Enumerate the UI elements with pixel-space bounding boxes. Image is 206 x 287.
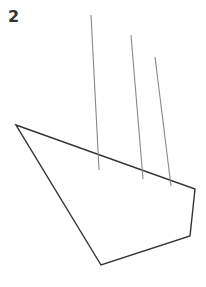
hull-polygon: [16, 125, 195, 265]
mast-line-3: [155, 57, 171, 186]
boat-sketch: [0, 0, 206, 287]
mast-line-1: [91, 15, 99, 170]
drawing-canvas: 2: [0, 0, 206, 287]
mast-line-2: [131, 35, 143, 179]
